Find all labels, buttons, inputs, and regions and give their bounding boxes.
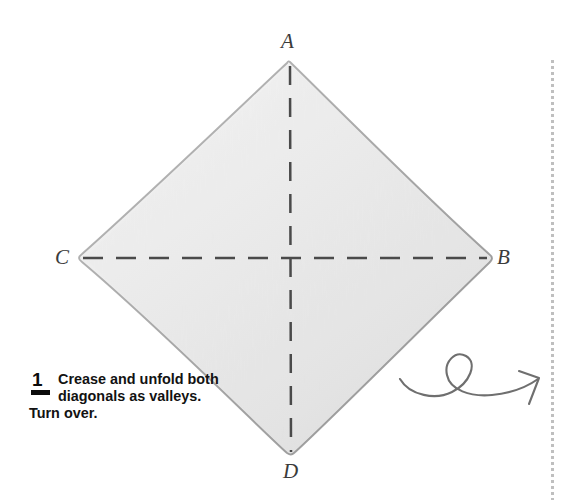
vertex-label-a: A	[281, 31, 294, 52]
turn-over-arrow	[0, 0, 571, 500]
vertex-label-c: C	[55, 247, 70, 268]
vertex-label-b: B	[497, 247, 510, 268]
step-instruction-text: Crease and unfold both diagonals as vall…	[29, 371, 234, 423]
vertex-label-d: D	[283, 461, 299, 482]
page-margin-dotted-rule	[551, 60, 554, 500]
step-marker: 1	[29, 371, 54, 395]
step-caption: 1 Crease and unfold both diagonals as va…	[29, 371, 234, 423]
step-underline-bar	[31, 390, 50, 395]
origami-figure: A B C D 1 Crease and unfold both diagona…	[0, 0, 571, 500]
turn-over-arrow-tail	[400, 354, 538, 396]
step-number: 1	[29, 371, 54, 388]
